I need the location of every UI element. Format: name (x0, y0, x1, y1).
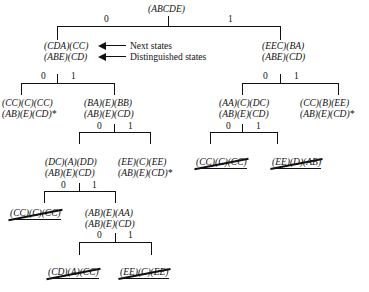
annotation-next-states: Next states (130, 41, 172, 51)
node-level2-right-left-distinguished-states: (AB)(E)(CD) (219, 109, 269, 120)
node-level1-left: (CDA)(CC) (ABE)(CD) (44, 41, 88, 63)
edge-label-level1-left-0: 0 (41, 71, 46, 81)
edge-root-bar (57, 26, 281, 27)
edge-root-left-drop (57, 26, 58, 40)
edge-level1-left-drop-1 (114, 83, 115, 95)
edge-root-stem (168, 16, 169, 26)
edge-level2-left-right-stem (114, 124, 115, 132)
node-level2-right-right: (CC)(B)(EE) (AB)(E)(CD)* (300, 98, 354, 120)
edge-level4-right-bar (79, 242, 152, 243)
node-root: (ABCDE) (148, 4, 185, 15)
node-level5-right-struck: (EE)(C)(EE) (120, 267, 169, 278)
node-level3-left-branch-right: (EE)(C)(EE) (AB)(E)(CD)* (118, 157, 172, 179)
node-level2-left-right: (BA)(E)(BB) (AB)(E)(CD) (84, 98, 134, 120)
node-level2-left-right-next-states: (BA)(E)(BB) (84, 98, 134, 109)
edge-label-root-1: 1 (228, 14, 233, 24)
node-level2-left-right-distinguished-states: (AB)(E)(CD) (84, 109, 134, 120)
node-level3-right-branch-left: (CC)(C)(CC) (196, 157, 247, 168)
node-level2-right-right-distinguished-states: (AB)(E)(CD)* (300, 109, 354, 120)
node-level3-left-branch-left: (DC)(A)(DD) (AB)(E)(CD) (45, 157, 97, 179)
edge-level1-right-drop-0 (242, 83, 243, 95)
edge-level3-left-stem (79, 183, 80, 191)
edge-level4-right-stem (115, 233, 116, 242)
edge-label-root-0: 0 (104, 14, 109, 24)
distinguishing-sequence-tree-figure: (ABCDE) 0 1 (CDA)(CC) (ABE)(CD) Next sta… (0, 0, 369, 292)
edge-level2-left-right-bar (79, 132, 151, 133)
edge-level1-left-stem (57, 74, 58, 83)
edge-label-level3-left-1: 1 (92, 180, 97, 190)
edge-level1-left-drop-0 (21, 83, 22, 95)
node-level4-right-next-states: (AB)(E)(AA) (85, 208, 135, 219)
edge-root-right-drop (280, 26, 281, 40)
edge-label-level2-left-right-1: 1 (128, 121, 133, 131)
node-level3-left-branch-right-distinguished-states: (AB)(E)(CD)* (118, 168, 172, 179)
node-level5-left-struck: (CD)(A)(CC) (48, 267, 99, 278)
node-level5-left: (CD)(A)(CC) (48, 267, 99, 278)
node-level1-left-distinguished-states: (ABE)(CD) (44, 52, 88, 63)
edge-label-level2-right-left-0: 0 (226, 121, 231, 131)
edge-level3-left-drop-0 (44, 191, 45, 203)
edge-level1-left-bar (21, 83, 115, 84)
edge-label-level2-left-right-0: 0 (97, 121, 102, 131)
node-level4-left-struck: (CC)(C)(CC) (10, 208, 61, 219)
node-level1-left-next-states: (CDA)(CC) (44, 41, 88, 52)
edge-level4-right-drop-1 (151, 242, 152, 255)
node-level1-right: (EEC)(BA) (ABE)(CD) (262, 41, 305, 63)
node-level5-right: (EE)(C)(EE) (120, 267, 169, 278)
node-level4-right-distinguished-states: (AB)(E)(CD) (85, 219, 135, 230)
edge-label-level4-right-1: 1 (128, 230, 133, 240)
edge-level3-left-bar (44, 191, 116, 192)
edge-label-level1-right-1: 1 (294, 71, 299, 81)
edge-level2-right-left-drop-1 (277, 132, 278, 144)
node-level4-right: (AB)(E)(AA) (AB)(E)(CD) (85, 208, 135, 230)
node-level3-left-branch-left-distinguished-states: (AB)(E)(CD) (45, 168, 97, 179)
node-root-next-states: (ABCDE) (148, 4, 185, 15)
edge-level1-right-drop-1 (338, 83, 339, 95)
node-level2-left-left: (CC)(C)(CC) (AB)(E)(CD)* (2, 98, 56, 120)
edge-level2-left-right-drop-1 (150, 132, 151, 144)
node-level3-right-branch-right-struck: (EE)(D)(AB) (272, 157, 321, 168)
node-level1-right-next-states: (EEC)(BA) (262, 41, 305, 52)
edge-level2-left-right-drop-0 (79, 132, 80, 144)
edge-level2-right-left-drop-0 (210, 132, 211, 144)
node-level2-right-left: (AA)(C)(DC) (AB)(E)(CD) (219, 98, 269, 120)
node-level2-left-left-distinguished-states: (AB)(E)(CD)* (2, 109, 56, 120)
edge-label-level3-left-0: 0 (61, 180, 66, 190)
edge-level4-right-drop-0 (79, 242, 80, 255)
arrow-left-icon-next-states (98, 41, 126, 50)
node-level2-right-left-next-states: (AA)(C)(DC) (219, 98, 269, 109)
edge-label-level1-left-1: 1 (71, 71, 76, 81)
edge-level1-right-bar (242, 83, 339, 84)
edge-label-level1-right-0: 0 (263, 71, 268, 81)
node-level3-right-branch-left-struck: (CC)(C)(CC) (196, 157, 247, 168)
edge-level2-right-left-bar (210, 132, 278, 133)
node-level2-left-left-next-states: (CC)(C)(CC) (2, 98, 56, 109)
annotation-distinguished-states: Distinguished states (130, 52, 206, 62)
node-level3-left-branch-left-next-states: (DC)(A)(DD) (45, 157, 97, 168)
edge-label-level4-right-0: 0 (97, 230, 102, 240)
node-level1-right-distinguished-states: (ABE)(CD) (262, 52, 305, 63)
edge-level3-left-drop-1 (115, 191, 116, 203)
edge-level1-right-stem (280, 74, 281, 83)
node-level4-left: (CC)(C)(CC) (10, 208, 61, 219)
arrow-left-icon-distinguished-states (98, 52, 126, 61)
node-level3-left-branch-right-next-states: (EE)(C)(EE) (118, 157, 172, 168)
edge-label-level2-right-left-1: 1 (256, 121, 261, 131)
node-level3-right-branch-right: (EE)(D)(AB) (272, 157, 321, 168)
edge-level2-right-left-stem (242, 124, 243, 132)
node-level2-right-right-next-states: (CC)(B)(EE) (300, 98, 354, 109)
